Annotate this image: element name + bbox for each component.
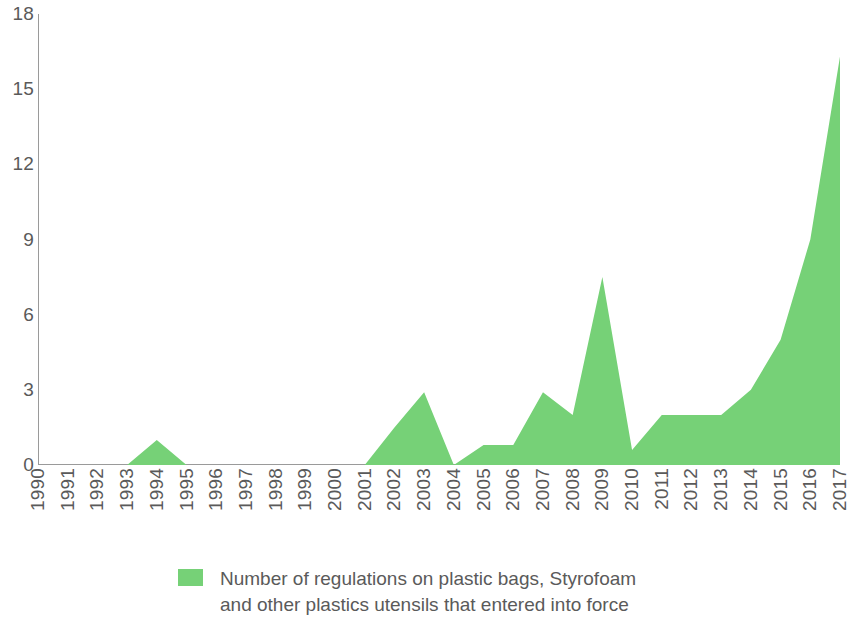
area-chart: 0369121518 19901991199219931994199519961…	[0, 0, 848, 625]
y-axis-tick-labels: 0369121518	[0, 0, 34, 480]
y-tick-label: 3	[0, 380, 34, 399]
y-tick-label: 9	[0, 230, 34, 249]
x-axis-tick-labels: 1990199119921993199419951996199719981999…	[38, 468, 840, 540]
x-tick-label: 2000	[325, 468, 345, 540]
x-tick-label: 2005	[474, 468, 494, 540]
x-tick-label: 2006	[503, 468, 523, 540]
x-tick-label: 2003	[414, 468, 434, 540]
x-tick-label: 1994	[147, 468, 167, 540]
x-tick-label: 2010	[622, 468, 642, 540]
x-tick-label: 2016	[800, 468, 820, 540]
y-tick-label: 12	[0, 154, 34, 173]
area-series-path	[38, 57, 840, 465]
area-series-svg	[38, 14, 840, 465]
x-tick-label: 1998	[266, 468, 286, 540]
x-tick-label: 2013	[711, 468, 731, 540]
x-tick-label: 2012	[681, 468, 701, 540]
x-tick-label: 2017	[830, 468, 848, 540]
x-tick-label: 2007	[533, 468, 553, 540]
plot-area	[38, 14, 840, 465]
x-tick-label: 2002	[384, 468, 404, 540]
x-tick-label: 2011	[652, 468, 672, 540]
legend-label-line-1: Number of regulations on plastic bags, S…	[220, 566, 636, 592]
legend-label-line-2: and other plastics utensils that entered…	[220, 592, 636, 618]
x-tick-label: 1995	[177, 468, 197, 540]
x-tick-label: 2014	[741, 468, 761, 540]
x-tick-label: 2015	[771, 468, 791, 540]
x-tick-label: 1991	[58, 468, 78, 540]
y-tick-label: 18	[0, 4, 34, 23]
y-tick-label: 15	[0, 79, 34, 98]
x-tick-label: 1999	[295, 468, 315, 540]
legend-label: Number of regulations on plastic bags, S…	[220, 566, 636, 618]
x-tick-label: 2009	[592, 468, 612, 540]
legend-color-swatch	[178, 569, 203, 586]
x-tick-label: 2008	[563, 468, 583, 540]
x-tick-label: 1992	[87, 468, 107, 540]
x-tick-label: 2001	[355, 468, 375, 540]
x-tick-label: 1993	[117, 468, 137, 540]
x-tick-label: 1990	[28, 468, 48, 540]
x-tick-label: 1997	[236, 468, 256, 540]
chart-legend: Number of regulations on plastic bags, S…	[178, 566, 636, 618]
x-tick-label: 1996	[206, 468, 226, 540]
y-tick-label: 6	[0, 305, 34, 324]
x-tick-label: 2004	[444, 468, 464, 540]
